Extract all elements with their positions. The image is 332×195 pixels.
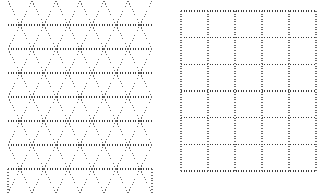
lattice-diagonal-line (116, 145, 128, 169)
lattice-diagonal-line (104, 1, 116, 25)
lattice-diagonal-line (20, 25, 32, 49)
lattice-diagonal-line (140, 73, 152, 97)
lattice-diagonal-line (56, 169, 68, 193)
lattice-diagonal-line (44, 73, 56, 97)
lattice-panels (0, 0, 332, 195)
lattice-diagonal-line (128, 25, 140, 49)
lattice-diagonal-line (8, 73, 20, 97)
lattice-diagonal-line (128, 145, 140, 169)
lattice-diagonal-line (140, 1, 152, 25)
lattice-diagonal-line (44, 145, 56, 169)
lattice-diagonal-line (140, 49, 152, 73)
lattice-diagonal-line (92, 169, 104, 193)
lattice-diagonal-line (20, 145, 32, 169)
lattice-diagonal-line (80, 1, 92, 25)
lattice-diagonal-line (32, 121, 44, 145)
lattice-diagonal-line (8, 25, 20, 49)
lattice-diagonal-line (68, 73, 80, 97)
lattice-diagonal-line (104, 145, 116, 169)
lattice-diagonal-line (80, 169, 92, 193)
lattice-diagonal-line (44, 169, 56, 193)
lattice-diagonal-line (44, 121, 56, 145)
lattice-diagonal-line (128, 169, 140, 193)
lattice-diagonal-line (80, 145, 92, 169)
square-lattice (181, 11, 316, 171)
lattice-diagonal-line (68, 145, 80, 169)
lattice-diagonal-line (56, 97, 68, 121)
lattice-diagonal-line (116, 49, 128, 73)
lattice-diagonal-line (116, 25, 128, 49)
lattice-diagonal-line (104, 49, 116, 73)
lattice-diagonal-line (44, 49, 56, 73)
lattice-diagonal-line (20, 73, 32, 97)
lattice-diagonal-line (8, 145, 20, 169)
lattice-diagonal-line (56, 73, 68, 97)
lattice-diagonal-line (8, 121, 20, 145)
figure-canvas (0, 0, 332, 195)
lattice-diagonal-line (92, 1, 104, 25)
lattice-diagonal-line (104, 73, 116, 97)
lattice-diagonal-line (20, 169, 32, 193)
lattice-diagonal-line (116, 1, 128, 25)
lattice-diagonal-line (8, 49, 20, 73)
lattice-diagonal-line (44, 97, 56, 121)
lattice-diagonal-line (68, 169, 80, 193)
lattice-diagonal-line (140, 169, 152, 193)
lattice-diagram-svg (0, 0, 332, 195)
lattice-diagonal-line (20, 1, 32, 25)
lattice-diagonal-line (68, 121, 80, 145)
lattice-diagonal-line (56, 121, 68, 145)
lattice-diagonal-line (128, 73, 140, 97)
lattice-diagonal-line (32, 49, 44, 73)
lattice-diagonal-line (104, 25, 116, 49)
lattice-diagonal-line (80, 97, 92, 121)
lattice-diagonal-line (8, 97, 20, 121)
lattice-diagonal-line (92, 25, 104, 49)
lattice-diagonal-line (128, 1, 140, 25)
lattice-diagonal-line (32, 1, 44, 25)
lattice-diagonal-line (56, 25, 68, 49)
lattice-diagonal-line (140, 145, 152, 169)
lattice-diagonal-line (68, 25, 80, 49)
lattice-diagonal-line (80, 25, 92, 49)
lattice-diagonal-line (140, 25, 152, 49)
lattice-diagonal-line (92, 97, 104, 121)
lattice-diagonal-line (44, 25, 56, 49)
lattice-diagonal-line (68, 97, 80, 121)
lattice-diagonal-line (128, 97, 140, 121)
lattice-diagonal-line (140, 121, 152, 145)
lattice-diagonal-line (20, 97, 32, 121)
lattice-diagonal-line (104, 121, 116, 145)
lattice-diagonal-line (80, 73, 92, 97)
lattice-diagonal-line (116, 97, 128, 121)
lattice-diagonal-line (20, 49, 32, 73)
lattice-diagonal-line (80, 49, 92, 73)
lattice-diagonal-line (92, 73, 104, 97)
lattice-diagonal-line (32, 97, 44, 121)
lattice-diagonal-line (56, 49, 68, 73)
lattice-diagonal-line (140, 97, 152, 121)
lattice-diagonal-line (32, 25, 44, 49)
lattice-diagonal-line (8, 169, 20, 193)
lattice-diagonal-line (128, 121, 140, 145)
lattice-diagonal-line (32, 169, 44, 193)
lattice-diagonal-line (68, 1, 80, 25)
lattice-diagonal-line (128, 49, 140, 73)
lattice-diagonal-line (44, 1, 56, 25)
lattice-diagonal-line (8, 1, 20, 25)
lattice-diagonal-line (92, 49, 104, 73)
lattice-diagonal-line (56, 1, 68, 25)
lattice-diagonal-line (116, 73, 128, 97)
lattice-diagonal-line (68, 49, 80, 73)
lattice-diagonal-line (32, 145, 44, 169)
lattice-diagonal-line (104, 97, 116, 121)
lattice-diagonal-line (20, 121, 32, 145)
triangular-lattice (8, 1, 152, 193)
lattice-diagonal-line (116, 169, 128, 193)
lattice-diagonal-line (92, 121, 104, 145)
lattice-diagonal-line (56, 145, 68, 169)
lattice-diagonal-line (92, 145, 104, 169)
lattice-diagonal-line (116, 121, 128, 145)
lattice-diagonal-line (80, 121, 92, 145)
lattice-diagonal-line (32, 73, 44, 97)
